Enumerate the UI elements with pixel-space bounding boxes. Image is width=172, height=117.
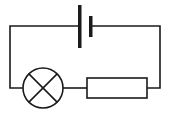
- battery-short-plate: [89, 16, 93, 37]
- battery-long-plate: [78, 5, 82, 48]
- circuit-diagram: [0, 0, 172, 117]
- resistor-icon: [87, 78, 147, 98]
- battery-icon: [78, 5, 93, 48]
- lamp-icon: [23, 68, 63, 108]
